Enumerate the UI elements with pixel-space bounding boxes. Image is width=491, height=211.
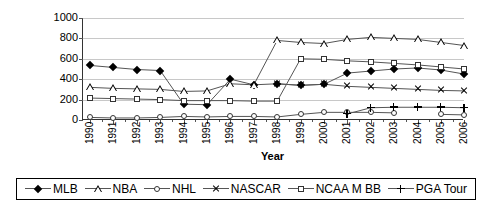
- data-point-nba: [320, 40, 328, 47]
- data-point-nba: [437, 38, 445, 45]
- data-point-ncaa-m-bb: [461, 66, 467, 72]
- x-axis-title: Year: [82, 150, 463, 162]
- legend-marker-x-cross-icon: [203, 183, 229, 195]
- data-point-ncaa-m-bb: [344, 58, 350, 64]
- data-point-nascar: [460, 87, 468, 95]
- legend-entry-nba[interactable]: NBA: [85, 182, 138, 196]
- legend-label: MLB: [53, 182, 78, 196]
- y-tick-label: 400: [42, 73, 78, 84]
- data-point-ncaa-m-bb: [157, 97, 163, 103]
- data-point-pga-tour: [460, 104, 468, 112]
- data-point-ncaa-m-bb: [391, 60, 397, 66]
- legend-entry-pga-tour[interactable]: PGA Tour: [388, 182, 467, 196]
- data-point-nba: [273, 36, 281, 43]
- data-point-ncaa-m-bb: [181, 98, 187, 104]
- legend-marker-open-triangle-icon: [85, 183, 111, 195]
- plot-area: [82, 18, 463, 120]
- legend-marker-open-circle-icon: [144, 183, 170, 195]
- data-point-nascar: [367, 83, 375, 91]
- data-point-ncaa-m-bb: [204, 98, 210, 104]
- legend-label: PGA Tour: [416, 182, 467, 196]
- legend-entry-nhl[interactable]: NHL: [144, 182, 196, 196]
- data-point-ncaa-m-bb: [274, 98, 280, 104]
- data-point-nascar: [297, 81, 305, 89]
- data-point-nhl: [298, 111, 304, 117]
- data-point-nba: [156, 85, 164, 92]
- y-axis-title: 2005 $(Millions): [0, 0, 11, 14]
- data-point-nba: [203, 87, 211, 94]
- data-point-nascar: [273, 80, 281, 88]
- y-tick-mark: [79, 120, 83, 121]
- data-point-nba: [460, 42, 468, 49]
- y-tick-label: 1000: [42, 12, 78, 23]
- data-point-nba: [180, 87, 188, 94]
- data-point-pga-tour: [343, 110, 351, 118]
- data-point-ncaa-m-bb: [368, 59, 374, 65]
- data-point-nhl: [461, 112, 467, 118]
- chart-legend: MLBNBANHLNASCARNCAA M BBPGA Tour: [16, 178, 476, 200]
- data-point-nascar: [343, 82, 351, 90]
- data-point-ncaa-m-bb: [110, 96, 116, 102]
- data-point-nba: [297, 38, 305, 45]
- data-point-pga-tour: [390, 103, 398, 111]
- data-point-nhl: [110, 115, 116, 121]
- data-point-nascar: [414, 85, 422, 93]
- legend-entry-mlb[interactable]: MLB: [25, 182, 78, 196]
- data-point-ncaa-m-bb: [321, 56, 327, 62]
- data-point-nascar: [437, 86, 445, 94]
- data-point-nhl: [134, 115, 140, 121]
- data-point-nascar: [390, 84, 398, 92]
- data-point-ncaa-m-bb: [438, 64, 444, 70]
- data-point-pga-tour: [414, 103, 422, 111]
- data-point-nba: [390, 34, 398, 41]
- legend-marker-open-square-icon: [288, 183, 314, 195]
- legend-label: NBA: [113, 182, 138, 196]
- data-point-pga-tour: [367, 104, 375, 112]
- legend-entry-ncaa-m-bb[interactable]: NCAA M BB: [288, 182, 381, 196]
- data-point-nba: [86, 83, 94, 90]
- y-tick-label: 200: [42, 94, 78, 105]
- y-tick-label: 0: [42, 114, 78, 125]
- data-point-ncaa-m-bb: [134, 96, 140, 102]
- legend-label: NHL: [172, 182, 196, 196]
- legend-marker-filled-diamond-icon: [25, 183, 51, 195]
- data-point-nba: [343, 35, 351, 42]
- data-point-pga-tour: [437, 103, 445, 111]
- data-point-nba: [367, 33, 375, 40]
- series-line-pga-tour: [347, 107, 464, 114]
- data-point-nba: [250, 81, 258, 88]
- legend-label: NASCAR: [231, 182, 281, 196]
- data-point-ncaa-m-bb: [87, 95, 93, 101]
- data-point-nba: [133, 85, 141, 92]
- legend-label: NCAA M BB: [316, 182, 381, 196]
- y-axis-tick-labels: 10008006004002000: [38, 18, 78, 120]
- data-point-nba: [226, 80, 234, 87]
- legend-marker-plus-line-icon: [388, 183, 414, 195]
- sports-revenue-line-chart: 2005 $(Millions) 10008006004002000 19901…: [0, 0, 491, 211]
- data-point-ncaa-m-bb: [415, 62, 421, 68]
- data-point-nba: [109, 84, 117, 91]
- data-point-ncaa-m-bb: [298, 56, 304, 62]
- y-tick-label: 800: [42, 32, 78, 43]
- legend-entry-nascar[interactable]: NASCAR: [203, 182, 281, 196]
- data-point-ncaa-m-bb: [251, 98, 257, 104]
- y-tick-label: 600: [42, 53, 78, 64]
- data-point-nhl: [204, 114, 210, 120]
- data-point-nascar: [320, 80, 328, 88]
- data-point-nba: [414, 35, 422, 42]
- data-point-ncaa-m-bb: [227, 98, 233, 104]
